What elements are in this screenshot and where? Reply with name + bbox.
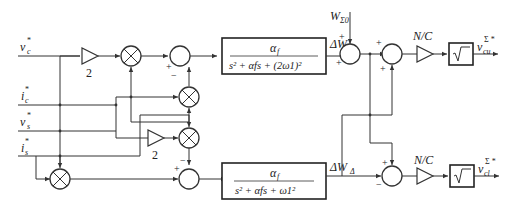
- input-is-label: i s *: [21, 137, 29, 157]
- svg-text:i: i: [21, 141, 24, 155]
- input-vs-label: v s *: [20, 111, 31, 131]
- svg-text:i: i: [21, 89, 24, 103]
- junction-dot: [369, 53, 372, 56]
- svg-text:s: s: [27, 122, 30, 131]
- svg-text:*: *: [27, 36, 31, 45]
- gain-2-mid: [148, 130, 164, 146]
- sign-plus: +: [336, 57, 342, 68]
- svg-text:ΔW: ΔW: [329, 160, 348, 174]
- control-block-diagram: v c * i c * v s * i s * 2: [0, 0, 515, 206]
- output-v-cu-label: v cu Σ *: [477, 35, 495, 56]
- summer-4: [382, 44, 402, 64]
- svg-text:Δ: Δ: [349, 167, 355, 176]
- svg-text:*: *: [25, 85, 29, 94]
- gain-2-top: [82, 48, 98, 64]
- gain-nc-bottom-label: N/C: [413, 153, 434, 167]
- output-v-cl-label: v cl Σ *: [478, 157, 496, 178]
- sign-plus: +: [380, 63, 386, 74]
- summer-3: [340, 44, 360, 64]
- input-ic-label: i c *: [21, 85, 29, 105]
- svg-text:cl: cl: [484, 169, 491, 178]
- gain-nc-top: [417, 46, 433, 62]
- svg-text:Σ *: Σ *: [485, 157, 496, 166]
- svg-text:Σ0: Σ0: [339, 16, 349, 25]
- multiplier-1: [121, 46, 141, 66]
- svg-text:Σ *: Σ *: [484, 35, 495, 44]
- svg-text:s² + αfs + (2ω1)²: s² + αfs + (2ω1)²: [229, 60, 302, 72]
- svg-text:cu: cu: [483, 47, 491, 56]
- signal-W-sigma0-label: W Σ0: [330, 9, 349, 25]
- sign-plus: +: [376, 37, 382, 48]
- svg-text:v: v: [20, 40, 26, 54]
- svg-text:α: α: [270, 166, 277, 180]
- filter-block-delta: α f s² + αfs + ω1²: [222, 163, 326, 199]
- gain-2-mid-label: 2: [152, 148, 158, 162]
- gain-2-top-label: 2: [86, 66, 92, 80]
- sign-minus: −: [376, 179, 382, 190]
- sign-plus: +: [339, 31, 345, 42]
- sqrt-block-bottom: [450, 165, 474, 187]
- svg-text:*: *: [25, 137, 29, 146]
- svg-text:*: *: [27, 111, 31, 120]
- summer-1: [170, 46, 190, 66]
- svg-text:v: v: [20, 115, 26, 129]
- junction-dot: [59, 130, 62, 133]
- sign-plus: +: [382, 157, 388, 168]
- summer-2: [179, 169, 199, 189]
- svg-text:c: c: [27, 47, 31, 56]
- sqrt-block-top: [449, 43, 473, 65]
- junction-dot: [369, 114, 372, 117]
- junction-dot: [115, 104, 118, 107]
- svg-text:s² + αfs + ω1²: s² + αfs + ω1²: [235, 185, 296, 196]
- svg-text:α: α: [270, 41, 277, 55]
- multiplier-3: [179, 128, 199, 148]
- multiplier-2: [179, 87, 199, 107]
- sign-minus: −: [171, 70, 177, 81]
- gain-nc-bottom: [417, 168, 433, 184]
- input-vc-label: v c *: [20, 36, 31, 56]
- junction-dot: [59, 104, 62, 107]
- summer-5: [382, 166, 402, 186]
- gain-nc-top-label: N/C: [412, 29, 433, 43]
- svg-text:c: c: [25, 96, 29, 105]
- multiplier-4: [50, 169, 70, 189]
- filter-block-sigma: α f s² + αfs + (2ω1)²: [222, 38, 326, 74]
- sign-minus: −: [180, 155, 186, 166]
